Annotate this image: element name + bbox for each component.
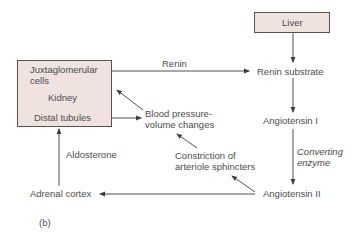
volume-changes-label: volume changes: [145, 119, 214, 130]
enzyme-label: enzyme: [297, 157, 330, 168]
renin-label: Renin: [162, 58, 187, 69]
blood-pressure-label: Blood pressure-: [145, 108, 212, 119]
constriction-to-bp-arrow: [177, 134, 197, 148]
panel-label: (b): [39, 217, 51, 228]
angiotensin-2-label: Angiotensin II: [263, 188, 321, 199]
bp-to-juxta-arrow: [117, 90, 143, 110]
renin-substrate-label: Renin substrate: [257, 66, 324, 77]
constriction-label: Constriction of: [175, 150, 236, 161]
kidney-label: Kidney: [48, 92, 77, 103]
juxtaglomerular-label: Juxtaglomerular: [30, 64, 98, 75]
ang2-to-constriction-arrow: [232, 176, 255, 192]
adrenal-cortex-label: Adrenal cortex: [30, 188, 91, 199]
aldosterone-label: Aldosterone: [66, 149, 117, 160]
distal-tubules-label: Distal tubules: [34, 112, 91, 123]
liver-label: Liver: [282, 17, 303, 28]
converting-label: Converting: [297, 146, 343, 157]
arteriole-sphincters-label: arteriole sphincters: [175, 161, 255, 172]
angiotensin-1-label: Angiotensin I: [263, 115, 318, 126]
renin-angiotensin-diagram: Juxtaglomerular cells Kidney Distal tubu…: [0, 0, 360, 235]
cells-label: cells: [30, 75, 49, 86]
